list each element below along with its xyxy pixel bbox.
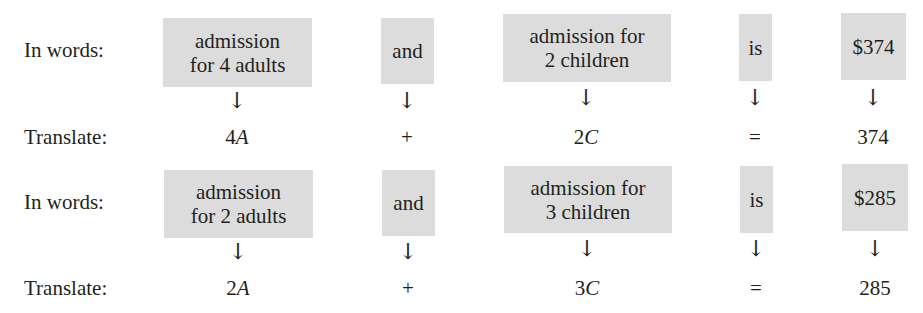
in-words-label: In words: bbox=[24, 190, 104, 214]
phrase-box-amount: $374 bbox=[841, 13, 906, 80]
variable: C bbox=[585, 276, 599, 300]
translation-value: 374 bbox=[848, 125, 898, 149]
phrase-line: 2 children bbox=[545, 48, 630, 72]
phrase-line: admission bbox=[196, 180, 281, 204]
phrase-line: admission for bbox=[531, 176, 646, 200]
translation-term: 2C bbox=[556, 125, 616, 149]
translate-label: Translate: bbox=[24, 125, 107, 149]
down-arrow-icon: ↓ bbox=[741, 238, 771, 260]
phrase-line: is bbox=[748, 36, 762, 60]
in-words-label: In words: bbox=[24, 38, 104, 62]
phrase-box-children: admission for 2 children bbox=[503, 14, 671, 82]
down-arrow-icon: ↓ bbox=[572, 238, 602, 260]
phrase-line: $374 bbox=[853, 35, 895, 59]
variable: A bbox=[237, 276, 250, 300]
translation-term: 2A bbox=[208, 276, 268, 300]
phrase-box-adults: admission for 4 adults bbox=[163, 18, 312, 87]
phrase-box-is: is bbox=[740, 166, 773, 233]
coefficient: 4 bbox=[225, 125, 236, 149]
translation-operator: + bbox=[392, 125, 422, 149]
down-arrow-icon: ↓ bbox=[223, 241, 253, 263]
translation-operator: = bbox=[741, 276, 771, 300]
down-arrow-icon: ↓ bbox=[571, 87, 601, 109]
phrase-box-adults: admission for 2 adults bbox=[164, 170, 313, 238]
phrase-line: for 4 adults bbox=[190, 53, 286, 77]
phrase-box-is: is bbox=[739, 14, 772, 81]
down-arrow-icon: ↓ bbox=[860, 238, 890, 260]
phrase-box-and: and bbox=[382, 170, 435, 236]
translation-operator: = bbox=[740, 125, 770, 149]
phrase-line: $285 bbox=[854, 186, 896, 210]
variable: A bbox=[236, 125, 249, 149]
phrase-line: and bbox=[393, 191, 423, 215]
translation-operator: + bbox=[393, 276, 423, 300]
phrase-box-amount: $285 bbox=[842, 164, 908, 231]
phrase-line: is bbox=[749, 188, 763, 212]
phrase-box-and: and bbox=[381, 18, 434, 84]
phrase-line: admission for bbox=[530, 24, 645, 48]
phrase-line: and bbox=[392, 39, 422, 63]
translate-label: Translate: bbox=[24, 276, 107, 300]
phrase-line: for 2 adults bbox=[191, 204, 287, 228]
phrase-box-children: admission for 3 children bbox=[504, 166, 672, 233]
down-arrow-icon: ↓ bbox=[392, 90, 422, 112]
coefficient: 2 bbox=[574, 125, 585, 149]
translation-term: 3C bbox=[557, 276, 617, 300]
variable: C bbox=[584, 125, 598, 149]
down-arrow-icon: ↓ bbox=[393, 241, 423, 263]
down-arrow-icon: ↓ bbox=[740, 87, 770, 109]
translation-value: 285 bbox=[850, 276, 900, 300]
translation-term: 4A bbox=[207, 125, 267, 149]
coefficient: 2 bbox=[226, 276, 237, 300]
phrase-line: 3 children bbox=[546, 200, 631, 224]
coefficient: 3 bbox=[575, 276, 586, 300]
down-arrow-icon: ↓ bbox=[858, 87, 888, 109]
phrase-line: admission bbox=[195, 29, 280, 53]
down-arrow-icon: ↓ bbox=[222, 90, 252, 112]
